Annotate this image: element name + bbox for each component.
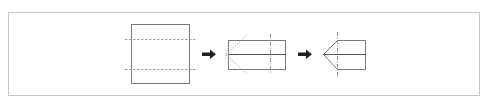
square-outline [132,25,190,84]
step-3-pentagon [324,32,366,78]
right-arrow-icon [202,50,216,60]
step-1-square [125,25,197,84]
right-arrow-icon [298,50,312,60]
diagonal-fold-bottom [226,55,247,75]
folding-diagram [0,0,490,101]
step-2-rectangle [226,34,286,74]
diagonal-fold-top [226,35,247,55]
